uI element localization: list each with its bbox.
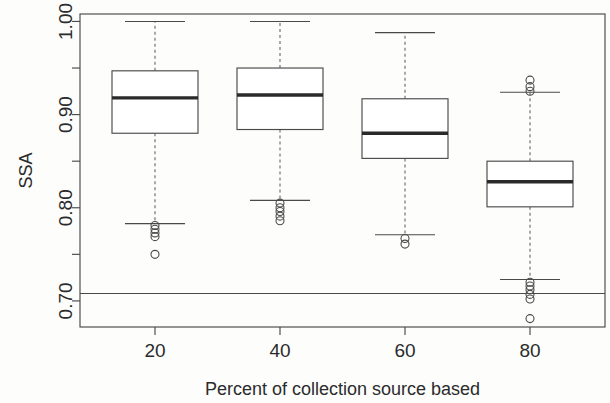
x-tick-label: 80: [519, 340, 540, 361]
outlier-point: [526, 315, 534, 323]
boxplot-box-80: [487, 76, 573, 322]
x-tick-label: 20: [144, 340, 165, 361]
boxplot-box-60: [362, 33, 448, 248]
y-axis: 0.700.800.901.00: [56, 3, 81, 319]
outlier-point: [151, 250, 159, 258]
outlier-point: [276, 212, 284, 220]
outlier-point: [526, 295, 534, 303]
iqr-box: [112, 71, 198, 133]
iqr-box: [362, 99, 448, 159]
y-tick-label: 0.80: [56, 189, 77, 226]
boxplot-svg: 0.700.800.901.00 20406080 SSA Percent of…: [0, 0, 610, 403]
boxplot-box-40: [237, 21, 323, 224]
boxplot-box-20: [112, 21, 198, 258]
outlier-point: [401, 240, 409, 248]
x-tick-label: 40: [269, 340, 290, 361]
iqr-box: [487, 161, 573, 207]
boxplot-figure: 0.700.800.901.00 20406080 SSA Percent of…: [0, 0, 610, 403]
box-series: [112, 21, 573, 322]
y-tick-label: 1.00: [56, 3, 77, 40]
outlier-point: [276, 217, 284, 225]
y-tick-label: 0.70: [56, 282, 77, 319]
x-axis: 20406080: [144, 327, 540, 361]
x-axis-title: Percent of collection source based: [205, 379, 480, 399]
y-axis-title: SSA: [16, 152, 36, 188]
x-tick-label: 60: [394, 340, 415, 361]
iqr-box: [237, 68, 323, 129]
outlier-point: [526, 290, 534, 298]
y-tick-label: 0.90: [56, 96, 77, 133]
